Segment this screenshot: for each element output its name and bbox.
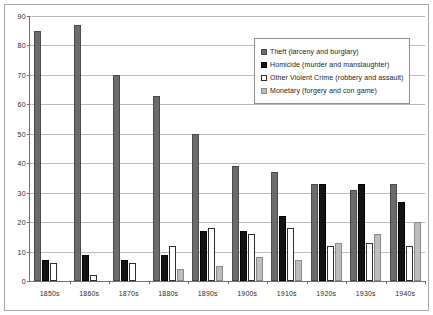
x-tick-mark <box>149 281 150 284</box>
bar <box>208 228 215 281</box>
bar <box>398 202 405 282</box>
x-tick-label: 1860s <box>79 290 99 297</box>
bar <box>50 263 57 281</box>
bar <box>319 184 326 281</box>
bar-group <box>188 16 228 281</box>
y-tick-label: 0 <box>22 278 26 285</box>
bar <box>311 184 318 281</box>
x-tick-mark <box>70 281 71 284</box>
y-tick-label: 10 <box>18 248 26 255</box>
bar <box>287 228 294 281</box>
bar <box>390 184 397 281</box>
bar-group <box>109 16 149 281</box>
bar-chart: 0102030405060708090 1850s1860s1870s1880s… <box>0 0 433 315</box>
bar <box>256 257 263 281</box>
bar <box>406 246 413 281</box>
legend-swatch-theft <box>261 49 267 55</box>
bar <box>129 263 136 281</box>
bar <box>271 172 278 281</box>
bar <box>295 260 302 281</box>
bar <box>121 260 128 281</box>
bar-group <box>30 16 70 281</box>
bar <box>42 260 49 281</box>
bar <box>169 246 176 281</box>
x-tick-mark <box>346 281 347 284</box>
legend-swatch-monetary <box>261 88 267 94</box>
x-tick-mark <box>109 281 110 284</box>
legend-item-monetary: Monetary (forgery and con game) <box>261 84 404 97</box>
bar <box>248 234 255 281</box>
bar <box>232 166 239 281</box>
bar <box>177 269 184 281</box>
bar <box>414 222 421 281</box>
legend-swatch-other-violent-crime <box>261 75 267 81</box>
legend-swatch-homicide <box>261 62 267 68</box>
bar <box>90 275 97 281</box>
legend-item-homicide: Homicide (murder and manslaughter) <box>261 58 404 71</box>
legend-label-homicide: Homicide (murder and manslaughter) <box>270 61 389 68</box>
bar <box>192 134 199 281</box>
bar <box>200 231 207 281</box>
y-tick-label: 70 <box>18 71 26 78</box>
y-tick-label: 20 <box>18 219 26 226</box>
x-tick-label: 1870s <box>119 290 139 297</box>
x-tick-mark <box>188 281 189 284</box>
legend-item-theft: Theft (larceny and burglary) <box>261 45 404 58</box>
bar <box>366 243 373 281</box>
legend-label-theft: Theft (larceny and burglary) <box>270 48 359 55</box>
bar-group <box>149 16 189 281</box>
x-tick-label: 1850s <box>40 290 60 297</box>
bar <box>279 216 286 281</box>
x-tick-mark <box>425 281 426 284</box>
x-tick-label: 1880s <box>158 290 178 297</box>
bar <box>350 190 357 281</box>
bar <box>327 246 334 281</box>
x-tick-label: 1940s <box>395 290 415 297</box>
x-tick-label: 1920s <box>316 290 336 297</box>
x-tick-label: 1900s <box>237 290 257 297</box>
bar <box>240 231 247 281</box>
y-tick-label: 30 <box>18 189 26 196</box>
legend-label-other-violent-crime: Other Violent Crime (robbery and assault… <box>270 74 404 81</box>
y-tick-label: 60 <box>18 101 26 108</box>
x-tick-label: 1910s <box>277 290 297 297</box>
bar <box>161 255 168 282</box>
y-tick-mark <box>27 281 30 282</box>
bar <box>335 243 342 281</box>
bar <box>82 255 89 282</box>
x-tick-label: 1890s <box>198 290 218 297</box>
x-tick-mark <box>267 281 268 284</box>
chart-legend: Theft (larceny and burglary) Homicide (m… <box>254 38 410 104</box>
legend-item-other-violent-crime: Other Violent Crime (robbery and assault… <box>261 71 404 84</box>
bar <box>358 184 365 281</box>
x-tick-mark <box>228 281 229 284</box>
y-tick-label: 40 <box>18 160 26 167</box>
x-tick-mark <box>307 281 308 284</box>
y-tick-label: 80 <box>18 42 26 49</box>
x-tick-label: 1930s <box>356 290 376 297</box>
bar <box>216 266 223 281</box>
bar <box>153 96 160 282</box>
bar <box>34 31 41 281</box>
x-tick-mark <box>386 281 387 284</box>
bar <box>74 25 81 281</box>
y-tick-label: 90 <box>18 13 26 20</box>
bar <box>113 75 120 281</box>
bar <box>374 234 381 281</box>
legend-label-monetary: Monetary (forgery and con game) <box>270 87 377 94</box>
bar-group <box>70 16 110 281</box>
y-tick-label: 50 <box>18 130 26 137</box>
